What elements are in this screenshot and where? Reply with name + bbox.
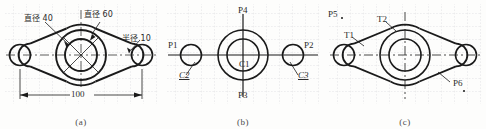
label-p6: P6: [453, 79, 463, 88]
label-radius-10: 半径 10: [122, 35, 151, 43]
point-marker-p6: [463, 90, 465, 92]
label-diameter-60: 直径 60: [84, 11, 113, 19]
label-p2: P2: [304, 41, 314, 50]
label-p3: P3: [238, 91, 248, 100]
label-diameter-40: 直径 40: [24, 15, 53, 23]
panel-c: P5 P6 T1 T2 (c): [324, 0, 486, 129]
label-p4: P4: [238, 6, 248, 15]
caption-c: (c): [324, 117, 486, 127]
label-p1: P1: [168, 41, 178, 50]
panel-c-drawing: [324, 0, 486, 129]
panel-b: P1 P2 P3 P4 C1 C2 C3 (b): [162, 0, 324, 129]
caption-b: (b): [162, 117, 324, 127]
panel-a: 直径 40 直径 60 半径 10 100 (a): [0, 0, 162, 129]
label-t1: T1: [344, 31, 354, 40]
label-c2: C2: [179, 71, 190, 80]
figure-sheet: 直径 40 直径 60 半径 10 100 (a): [0, 0, 486, 129]
caption-a: (a): [0, 117, 162, 127]
label-p5: P5: [328, 10, 338, 19]
label-c3: C3: [298, 71, 309, 80]
label-t2: T2: [377, 15, 387, 24]
dimension-value-100: 100: [71, 89, 85, 99]
point-marker-p5: [341, 17, 343, 19]
label-c1: C1: [239, 60, 250, 69]
